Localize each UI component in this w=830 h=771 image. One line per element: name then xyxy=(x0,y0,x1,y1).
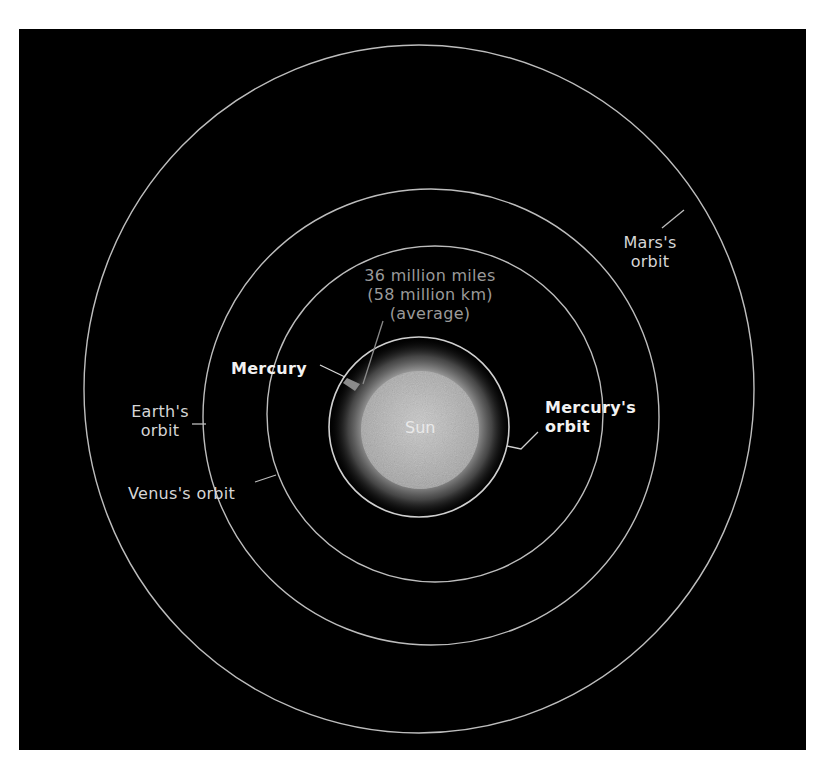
orbit-diagram xyxy=(0,0,830,771)
venus-orbit-label: Venus's orbit xyxy=(128,484,235,503)
mercury-orbit-label-line1: Mercury's xyxy=(545,398,636,417)
mars-orbit-label-line2: orbit xyxy=(610,252,690,271)
mars-leader-line xyxy=(662,210,684,228)
earth-orbit-label: Earth's orbit xyxy=(120,402,200,440)
mars-orbit-label-line1: Mars's xyxy=(610,233,690,252)
distance-miles: 36 million miles xyxy=(355,266,505,285)
venus-leader-line xyxy=(255,475,276,482)
distance-average: (average) xyxy=(355,304,505,323)
mercury-orbit-label-line2: orbit xyxy=(545,417,636,436)
mercury-label: Mercury xyxy=(231,359,307,378)
earth-orbit-label-line1: Earth's xyxy=(120,402,200,421)
sun-label: Sun xyxy=(405,418,435,437)
distance-note: 36 million miles (58 million km) (averag… xyxy=(355,266,505,323)
earth-orbit-label-line2: orbit xyxy=(120,421,200,440)
mercury-leader-line xyxy=(320,365,345,377)
distance-km: (58 million km) xyxy=(355,285,505,304)
venus-orbit-label-line1: Venus's orbit xyxy=(128,484,235,503)
mars-orbit-label: Mars's orbit xyxy=(610,233,690,271)
mercury-orbit-label: Mercury's orbit xyxy=(545,398,636,436)
